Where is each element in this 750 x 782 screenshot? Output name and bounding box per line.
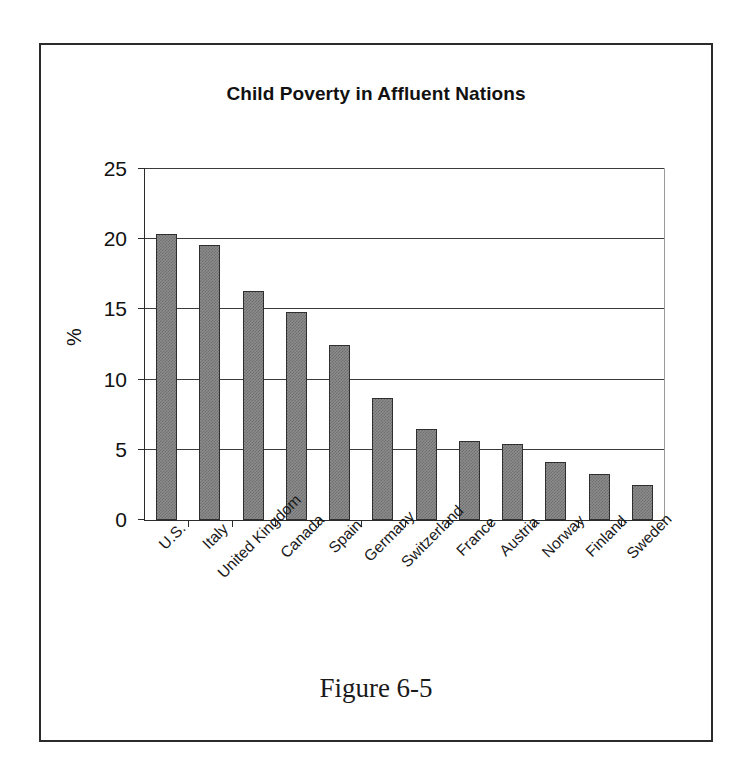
x-label-slot: Austria bbox=[491, 524, 534, 674]
figure-frame: Child Poverty in Affluent Nations % 0510… bbox=[39, 43, 713, 742]
bar-slot bbox=[448, 169, 491, 520]
x-axis-labels-group: U.S.ItalyUnited KingdomCanadaSpainGerman… bbox=[144, 524, 665, 674]
x-label-slot: U.S. bbox=[144, 524, 187, 674]
x-label-slot: Canada bbox=[274, 524, 317, 674]
y-axis-tick: 15 bbox=[138, 308, 145, 309]
bar bbox=[416, 429, 437, 520]
bar-slot bbox=[275, 169, 318, 520]
x-label-slot: Sweden bbox=[622, 524, 665, 674]
figure-caption: Figure 6-5 bbox=[41, 673, 711, 704]
bar bbox=[243, 291, 264, 520]
x-label-slot: Finland bbox=[578, 524, 621, 674]
y-axis-tick: 20 bbox=[138, 238, 145, 239]
y-axis-tick: 25 bbox=[138, 168, 145, 169]
bar-slot bbox=[405, 169, 448, 520]
bar-slot bbox=[534, 169, 577, 520]
bar-slot bbox=[318, 169, 361, 520]
bar bbox=[329, 345, 350, 521]
x-label-slot: Spain bbox=[318, 524, 361, 674]
bar bbox=[632, 485, 653, 520]
y-axis-title: % bbox=[63, 329, 86, 347]
x-axis-label: Italy bbox=[199, 520, 232, 553]
y-axis-tick: 0 bbox=[138, 519, 145, 520]
bar-slot bbox=[145, 169, 188, 520]
plot-area-wrapper: % 0510152025 bbox=[144, 168, 665, 521]
x-label-slot: United Kingdom bbox=[231, 524, 274, 674]
y-axis-tick-label: 25 bbox=[104, 157, 127, 181]
bar bbox=[459, 441, 480, 520]
bar-slot bbox=[232, 169, 275, 520]
bars-group bbox=[145, 169, 664, 520]
x-axis-label: U.S. bbox=[155, 519, 189, 553]
y-axis-tick: 10 bbox=[138, 379, 145, 380]
bar bbox=[372, 398, 393, 520]
bar bbox=[286, 312, 307, 520]
plot-area: 0510152025 bbox=[144, 168, 665, 521]
y-axis-tick-label: 5 bbox=[115, 438, 127, 462]
chart-title: Child Poverty in Affluent Nations bbox=[41, 83, 711, 105]
bar-slot bbox=[578, 169, 621, 520]
x-label-slot: Norway bbox=[535, 524, 578, 674]
y-axis-tick: 5 bbox=[138, 449, 145, 450]
y-axis-tick-label: 10 bbox=[104, 368, 127, 392]
y-axis-tick-label: 20 bbox=[104, 227, 127, 251]
bar-slot bbox=[491, 169, 534, 520]
bar-slot bbox=[361, 169, 404, 520]
x-label-slot: Switzerland bbox=[405, 524, 448, 674]
y-axis-tick-label: 0 bbox=[115, 508, 127, 532]
bar bbox=[502, 444, 523, 520]
bar bbox=[545, 462, 566, 520]
bar bbox=[156, 234, 177, 520]
bar bbox=[589, 474, 610, 520]
x-axis-label: Spain bbox=[325, 516, 366, 557]
bar-slot bbox=[621, 169, 664, 520]
x-label-slot: France bbox=[448, 524, 491, 674]
bar bbox=[199, 245, 220, 520]
x-label-slot: Germany bbox=[361, 524, 404, 674]
y-axis-tick-label: 15 bbox=[104, 297, 127, 321]
bar-slot bbox=[188, 169, 231, 520]
x-label-slot: Italy bbox=[187, 524, 230, 674]
